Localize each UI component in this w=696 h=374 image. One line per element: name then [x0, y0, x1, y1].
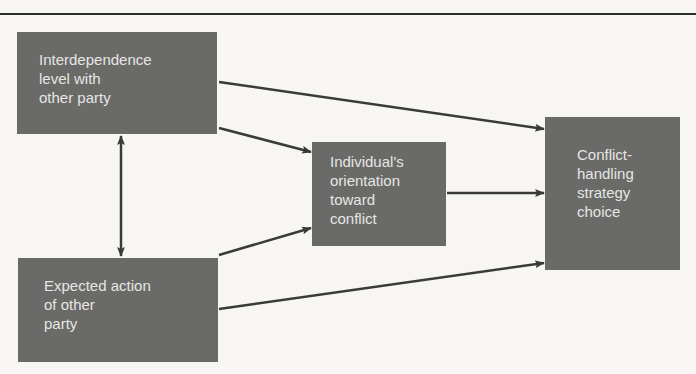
node-text-line: other party — [39, 88, 217, 107]
node-interdependence-level: Interdependence level with other party — [17, 32, 217, 134]
arrow-interdependence-to-orientation — [219, 128, 311, 152]
arrow-expected-to-orientation — [219, 228, 311, 255]
node-text-line: orientation — [330, 171, 446, 190]
node-text-line: handling — [577, 164, 680, 183]
node-expected-action: Expected action of other party — [18, 258, 218, 362]
node-text-line: Expected action — [44, 276, 218, 295]
node-individual-orientation: Individual's orientation toward conflict — [312, 142, 446, 246]
node-text-line: of other — [44, 295, 218, 314]
node-text-line: party — [44, 314, 218, 333]
node-text-line: Individual's — [330, 152, 446, 171]
node-text-line: Interdependence — [39, 50, 217, 69]
node-text-line: strategy — [577, 183, 680, 202]
node-text-line: toward — [330, 190, 446, 209]
node-text-line: level with — [39, 69, 217, 88]
arrow-interdependence-to-strategy — [219, 82, 544, 129]
node-text-line: Conflict- — [577, 145, 680, 164]
arrow-expected-to-strategy — [219, 263, 544, 309]
node-text-line: conflict — [330, 209, 446, 228]
node-conflict-handling-strategy: Conflict- handling strategy choice — [545, 117, 680, 270]
node-text-line: choice — [577, 202, 680, 221]
